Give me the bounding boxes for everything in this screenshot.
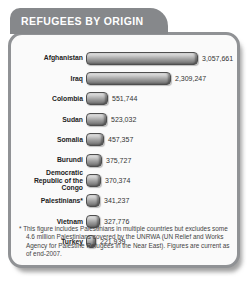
chart-row: Palestinians*341,237 xyxy=(17,191,233,211)
chart-row: Burundi375,727 xyxy=(17,150,233,170)
value-label: 457,357 xyxy=(108,136,133,143)
refugees-by-origin-figure: REFUGEES BY ORIGIN Afghanistan3,057,661I… xyxy=(0,0,248,283)
bar xyxy=(86,174,101,187)
footnote-text: * This figure includes Palestinians in m… xyxy=(19,225,230,258)
bar xyxy=(86,194,100,207)
value-label: 327,776 xyxy=(104,218,129,225)
value-label: 3,057,661 xyxy=(202,55,233,62)
chart-row: Democratic Republic of the Congo370,374 xyxy=(17,170,233,190)
chart-row: Afghanistan3,057,661 xyxy=(17,48,233,68)
value-label: 375,727 xyxy=(106,157,131,164)
figure-title: REFUGEES BY ORIGIN xyxy=(10,8,168,35)
bar xyxy=(86,92,108,105)
value-label: 341,237 xyxy=(104,197,129,204)
value-label: 2,309,247 xyxy=(175,75,206,82)
chart-row: Sudan523,032 xyxy=(17,109,233,129)
category-label: Palestinians* xyxy=(17,197,86,205)
category-label: Burundi xyxy=(17,156,86,164)
value-label: 551,744 xyxy=(112,95,137,102)
chart-row: Somalia457,357 xyxy=(17,130,233,150)
bar xyxy=(86,52,198,65)
chart-row: Colombia551,744 xyxy=(17,89,233,109)
category-label: Afghanistan xyxy=(17,54,86,62)
chart-row: Iraq2,309,247 xyxy=(17,68,233,88)
value-label: 523,032 xyxy=(111,116,136,123)
bar xyxy=(86,113,107,126)
bar xyxy=(86,133,104,146)
category-label: Sudan xyxy=(17,116,86,124)
category-label: Democratic Republic of the Congo xyxy=(17,169,86,192)
bar-chart: Afghanistan3,057,661Iraq2,309,247Colombi… xyxy=(17,48,233,252)
category-label: Colombia xyxy=(17,95,86,103)
category-label: Iraq xyxy=(17,75,86,83)
bar xyxy=(86,154,102,167)
bar xyxy=(86,72,171,85)
chart-panel: Afghanistan3,057,661Iraq2,309,247Colombi… xyxy=(8,32,240,268)
title-tab: REFUGEES BY ORIGIN xyxy=(10,8,168,34)
category-label: Vietnam xyxy=(17,218,86,226)
value-label: 370,374 xyxy=(105,177,130,184)
category-label: Somalia xyxy=(17,136,86,144)
